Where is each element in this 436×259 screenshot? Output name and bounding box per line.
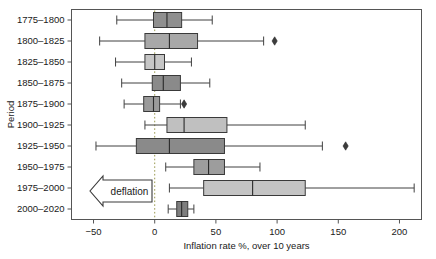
y-tick-label-1875-1900: 1875–1900 bbox=[17, 98, 65, 109]
y-tick-label-2000-2020: 2000–2020 bbox=[17, 203, 65, 214]
y-tick-label-1775-1800: 1775–1800 bbox=[17, 14, 65, 25]
box-body bbox=[204, 181, 306, 196]
deflation-annotation: deflation bbox=[90, 176, 152, 206]
box-body bbox=[136, 139, 224, 154]
x-tick-label--50: −50 bbox=[85, 226, 101, 237]
y-tick-label-1825-1850: 1825–1850 bbox=[17, 56, 65, 67]
box-1800-1825[interactable] bbox=[100, 34, 278, 49]
chart-canvas: 1775–18001800–18251825–18501850–18751875… bbox=[0, 0, 436, 259]
x-tick-label-100: 100 bbox=[269, 226, 285, 237]
y-tick-label-1900-1925: 1900–1925 bbox=[17, 119, 65, 130]
outlier-marker bbox=[181, 100, 186, 108]
box-1975-2000[interactable] bbox=[169, 181, 414, 196]
y-axis-title: Period bbox=[5, 101, 16, 128]
boxplot-figure: 1775–18001800–18251825–18501850–18751875… bbox=[0, 0, 436, 259]
y-axis: 1775–18001800–18251825–18501850–18751875… bbox=[5, 14, 72, 214]
x-axis-title: Inflation rate %, over 10 years bbox=[183, 240, 309, 251]
box-1950-1975[interactable] bbox=[166, 160, 260, 175]
box-2000-2020[interactable] bbox=[168, 202, 194, 217]
outlier-marker bbox=[343, 142, 348, 150]
box-body bbox=[153, 13, 181, 28]
x-tick-label-150: 150 bbox=[330, 226, 346, 237]
box-body bbox=[177, 202, 188, 217]
box-1825-1850[interactable] bbox=[116, 55, 192, 70]
box-1775-1800[interactable] bbox=[117, 13, 212, 28]
x-tick-label-0: 0 bbox=[152, 226, 157, 237]
box-1875-1900[interactable] bbox=[124, 97, 187, 112]
x-axis: −50050100150200Inflation rate %, over 10… bbox=[85, 220, 407, 251]
box-1900-1925[interactable] bbox=[145, 118, 305, 133]
box-1925-1950[interactable] bbox=[96, 139, 348, 154]
x-tick-label-200: 200 bbox=[392, 226, 408, 237]
deflation-label: deflation bbox=[111, 186, 149, 197]
y-tick-label-1975-2000: 1975–2000 bbox=[17, 182, 65, 193]
box-body bbox=[145, 34, 198, 49]
y-tick-label-1925-1950: 1925–1950 bbox=[17, 140, 65, 151]
box-body bbox=[194, 160, 225, 175]
box-body bbox=[144, 97, 160, 112]
outlier-marker bbox=[272, 37, 277, 45]
box-body bbox=[167, 118, 227, 133]
box-1850-1875[interactable] bbox=[122, 76, 210, 91]
y-tick-label-1800-1825: 1800–1825 bbox=[17, 35, 65, 46]
y-tick-label-1950-1975: 1950–1975 bbox=[17, 161, 65, 172]
y-tick-label-1850-1875: 1850–1875 bbox=[17, 77, 65, 88]
x-tick-label-50: 50 bbox=[211, 226, 222, 237]
box-body bbox=[152, 76, 180, 91]
